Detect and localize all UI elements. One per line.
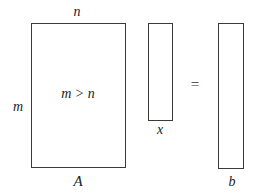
vector-b-label: b [229, 175, 236, 189]
vector-x-box [148, 23, 173, 121]
matrix-columns-label: n [74, 5, 81, 19]
equals-sign: = [191, 77, 199, 92]
matrix-name-label: A [73, 174, 82, 188]
vector-x-label: x [157, 123, 163, 137]
matrix-rows-label: m [13, 100, 23, 114]
vector-b-box [218, 23, 244, 169]
matrix-condition-label: m > n [61, 87, 95, 101]
